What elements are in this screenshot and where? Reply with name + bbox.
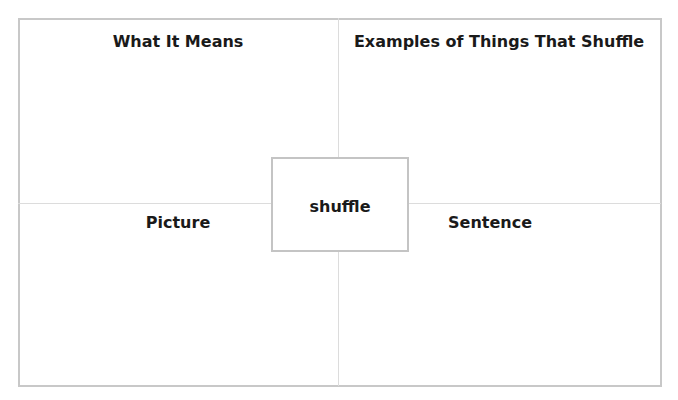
quadrant-label-what-it-means: What It Means	[113, 32, 244, 51]
quadrant-label-sentence: Sentence	[448, 213, 532, 232]
center-word: shuffle	[309, 197, 370, 216]
center-word-box: shuffle	[271, 157, 409, 252]
quadrant-label-examples: Examples of Things That Shuffle	[354, 32, 644, 51]
quadrant-label-picture: Picture	[146, 213, 210, 232]
